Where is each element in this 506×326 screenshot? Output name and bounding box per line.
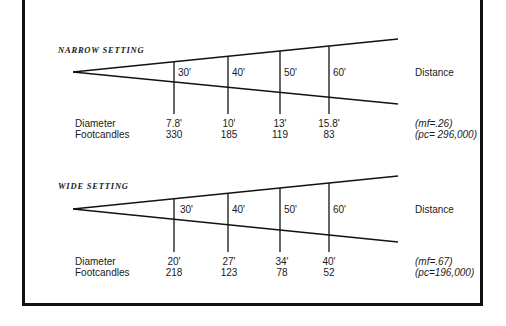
distance-label: 60' <box>333 67 346 78</box>
panel-title: NARROW SETTING <box>58 45 144 55</box>
diameter-value: 13' <box>260 118 300 129</box>
distance-axis-label: Distance <box>415 67 454 78</box>
diameter-value: 27' <box>209 256 249 267</box>
distance-label: 40' <box>232 67 245 78</box>
distance-label: 30' <box>180 204 193 215</box>
footcandles-row-label: Footcandles <box>75 267 129 278</box>
footcandles-value: 83 <box>309 129 349 140</box>
diameter-value: 15.8' <box>309 118 349 129</box>
footcandles-value: 123 <box>209 267 249 278</box>
distance-label: 60' <box>333 204 346 215</box>
footcandles-value: 52 <box>309 267 349 278</box>
footcandles-value: 185 <box>209 129 249 140</box>
pc-note: (pc= 296,000) <box>415 129 477 140</box>
pc-note: (pc=196,000) <box>415 267 474 278</box>
footcandles-value: 218 <box>154 267 194 278</box>
diameter-row-label: Diameter <box>75 118 116 129</box>
diameter-value: 34' <box>262 256 302 267</box>
footcandles-value: 119 <box>260 129 300 140</box>
diameter-row-label: Diameter <box>75 256 116 267</box>
distance-label: 50' <box>284 67 297 78</box>
diameter-value: 7.8' <box>154 118 194 129</box>
distance-label: 30' <box>178 67 191 78</box>
footcandles-row-label: Footcandles <box>75 129 129 140</box>
distance-axis-label: Distance <box>415 204 454 215</box>
mf-note: (mf=.26) <box>415 118 453 129</box>
footcandles-value: 330 <box>154 129 194 140</box>
diameter-value: 10' <box>209 118 249 129</box>
diameter-value: 20' <box>154 256 194 267</box>
distance-label: 40' <box>232 204 245 215</box>
diameter-value: 40' <box>309 256 349 267</box>
footcandles-value: 78 <box>262 267 302 278</box>
panel-title: WIDE SETTING <box>58 181 129 191</box>
distance-label: 50' <box>284 204 297 215</box>
mf-note: (mf=.67) <box>415 256 453 267</box>
